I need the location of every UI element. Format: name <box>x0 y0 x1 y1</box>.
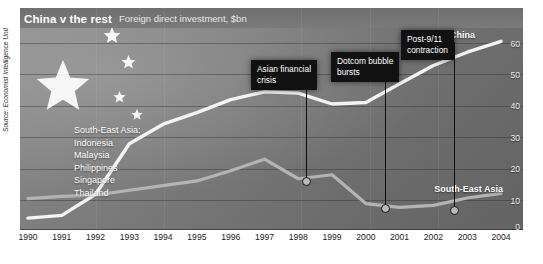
xtick-1999: 1999 <box>323 232 342 242</box>
ytick-20: 20 <box>510 164 520 174</box>
ytick-0: 0 <box>515 222 520 230</box>
ytick-40: 40 <box>510 101 520 111</box>
legend-country-indonesia: Indonesia <box>74 137 141 150</box>
chart-subtitle: Foreign direct investment, $bn <box>119 13 247 24</box>
xtick-1995: 1995 <box>187 232 206 242</box>
legend-country-malaysia: Malaysia <box>74 149 141 162</box>
annotation-post-911-contraction: Post-9/11 contraction <box>401 30 454 60</box>
x-axis: 1990199119921993199419951996199719981999… <box>20 232 523 246</box>
annotation-3-line-1: Post-9/11 <box>407 34 448 45</box>
xtick-1992: 1992 <box>86 232 105 242</box>
annotation-3-line-2: contraction <box>407 45 448 56</box>
xtick-1993: 1993 <box>120 232 139 242</box>
xtick-2001: 2001 <box>390 232 409 242</box>
xtick-1996: 1996 <box>221 232 240 242</box>
series-label-south-east-asia: South-East Asia <box>434 184 503 194</box>
annotation-asian-financial-crisis: Asian financial crisis <box>251 60 317 90</box>
chart-title: China v the rest <box>24 13 112 25</box>
annotation-1-line-2: crisis <box>257 75 311 86</box>
xtick-1990: 1990 <box>18 232 37 242</box>
annotation-2-line-1: Dotcom bubble <box>337 56 393 67</box>
legend-country-philippines: Philippines <box>74 162 141 175</box>
xtick-1997: 1997 <box>255 232 274 242</box>
annotation-marker-1 <box>302 177 311 186</box>
annotation-dotcom-bubble-bursts: Dotcom bubble bursts <box>331 52 399 82</box>
xtick-2000: 2000 <box>356 232 375 242</box>
xtick-2003: 2003 <box>458 232 477 242</box>
xtick-1991: 1991 <box>52 232 71 242</box>
legend-heading: South-East Asia: <box>74 124 141 137</box>
annotation-marker-3 <box>450 206 459 215</box>
annotation-2-line-2: bursts <box>337 67 393 78</box>
chart-header: China v the rest Foreign direct investme… <box>24 10 247 27</box>
ytick-10: 10 <box>510 196 520 206</box>
source-credit: Source: Economist Intelligence Unit <box>2 36 9 132</box>
ytick-30: 30 <box>510 133 520 143</box>
chart-screenshot: 60 50 40 30 20 10 0 China South-East Asi… <box>0 0 543 264</box>
chart-plot-area: 60 50 40 30 20 10 0 China South-East Asi… <box>20 8 523 230</box>
annotation-1-line-1: Asian financial <box>257 64 311 75</box>
xtick-2004: 2004 <box>491 232 510 242</box>
annotation-leader-3 <box>454 42 455 210</box>
legend-country-singapore: Singapore <box>74 174 141 187</box>
annotation-leader-2 <box>385 64 386 208</box>
legend-south-east-asia: South-East Asia: Indonesia Malaysia Phil… <box>74 124 141 200</box>
legend-country-thailand: Thailand <box>74 187 141 200</box>
xtick-1994: 1994 <box>154 232 173 242</box>
annotation-marker-2 <box>381 204 390 213</box>
ytick-50: 50 <box>510 70 520 80</box>
xtick-2002: 2002 <box>424 232 443 242</box>
ytick-60: 60 <box>510 39 520 49</box>
xtick-1998: 1998 <box>289 232 308 242</box>
